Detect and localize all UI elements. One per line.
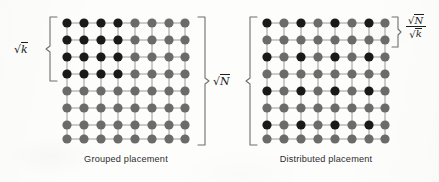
- label-sqrt-n-over-sqrt-k: √N √k: [406, 14, 426, 39]
- bracket-grouped-right: [196, 16, 210, 146]
- grid-distributed-svg: [260, 16, 392, 146]
- caption-distributed: Distributed placement: [258, 154, 394, 164]
- radical-sqrt-n: √N: [213, 74, 230, 87]
- radical-sqrt-n: √N: [408, 14, 424, 26]
- radical-sqrt-k: √k: [14, 42, 28, 55]
- figure-canvas: √k: [0, 0, 439, 182]
- radical-radicand: k: [21, 42, 29, 55]
- radical-radicand: N: [220, 74, 231, 87]
- radical-radicand: k: [415, 28, 422, 40]
- bracket-sqrt-k: [45, 16, 59, 82]
- bracket-distributed-left: [245, 16, 259, 146]
- grid-grouped: [60, 16, 192, 146]
- bracket-sqrt-n-over-sqrt-k: [390, 16, 402, 48]
- fraction-numerator: √N: [406, 14, 426, 27]
- fraction-denominator: √k: [406, 27, 426, 39]
- label-sqrt-n-center: √N: [213, 74, 230, 87]
- grid-grouped-svg: [60, 16, 192, 146]
- radical-radicand: N: [414, 14, 424, 26]
- caption-grouped: Grouped placement: [60, 154, 192, 164]
- fraction: √N √k: [406, 14, 426, 39]
- grid-distributed: [260, 16, 392, 146]
- radical-sqrt-k: √k: [409, 28, 422, 40]
- label-sqrt-k: √k: [14, 42, 28, 55]
